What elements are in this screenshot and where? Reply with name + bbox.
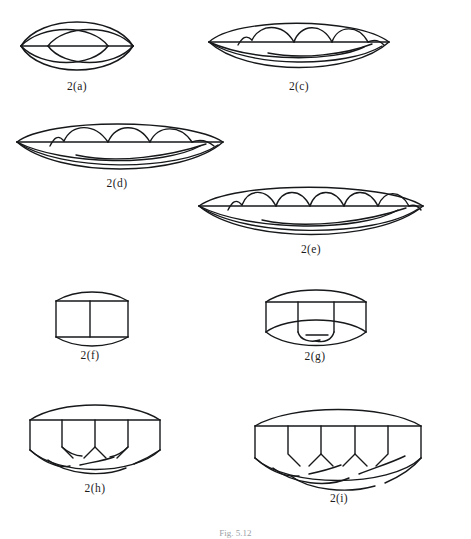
strand-2b <box>95 447 106 458</box>
diagram-2g <box>256 288 376 354</box>
lower-arc-2a <box>273 468 349 483</box>
diagram-label-2d: 2(d) <box>88 177 146 189</box>
top-arc <box>266 290 366 302</box>
bottom-hull-arc <box>30 450 160 470</box>
ellipse-front <box>266 332 366 346</box>
strand-3b <box>355 454 367 466</box>
diagram-label-2f: 2(f) <box>61 349 119 361</box>
top-arc <box>56 292 128 301</box>
scallop-1 <box>252 28 294 43</box>
lower-arc-1a <box>30 450 70 466</box>
scallop-4 <box>344 192 378 206</box>
scallop-2 <box>294 28 332 42</box>
scallop-1 <box>64 128 108 142</box>
lower-arc-2b <box>134 450 160 464</box>
lower-arc-1a <box>255 458 299 476</box>
diagram-2i <box>243 406 433 492</box>
inner-lens-b-bottom <box>48 46 133 63</box>
strand-1 <box>62 420 73 458</box>
diagram-label-2h: 2(h) <box>66 482 124 494</box>
lower-arc-1b <box>309 465 341 474</box>
diagram-2c <box>206 20 392 78</box>
scallop-2 <box>108 128 150 142</box>
strand-2b <box>321 454 333 466</box>
diagram-label-2c: 2(c) <box>270 80 328 92</box>
strand-4 <box>376 426 388 466</box>
lower-arc-1b <box>80 457 114 465</box>
diagram-2e <box>196 186 426 246</box>
top-arc <box>255 410 421 427</box>
diagram-label-2g: 2(g) <box>286 350 344 362</box>
inner-lens-a-top <box>21 30 108 47</box>
diagram-label-2a: 2(a) <box>48 80 106 92</box>
scallop-3 <box>310 192 344 206</box>
figure-page: 2(a) 2(c) <box>0 0 471 539</box>
ellipse-back <box>266 320 366 332</box>
scallop-2 <box>276 192 310 206</box>
scallop-3 <box>150 129 192 142</box>
top-hull-arc <box>17 124 223 142</box>
strand-2a <box>309 426 321 466</box>
diagram-label-2e: 2(e) <box>282 243 340 255</box>
diagram-label-2i: 2(i) <box>310 492 368 504</box>
top-arc <box>30 405 160 420</box>
scallop-1 <box>242 192 276 206</box>
scallop-tail-left <box>238 37 252 45</box>
inner-lens-b-top <box>48 30 133 47</box>
strand-2 <box>84 420 95 458</box>
inner-lens-a-bottom <box>21 46 108 63</box>
strand-a-hook <box>298 332 320 341</box>
chev-join-left <box>62 447 82 456</box>
bottom-arc <box>56 337 128 346</box>
lower-arc-2a <box>48 460 126 474</box>
diagram-2h <box>18 402 172 482</box>
strand-1 <box>288 426 300 466</box>
figure-caption: Fig. 5.12 <box>0 528 471 538</box>
diagram-2d <box>14 122 226 180</box>
strand-3a <box>343 426 355 466</box>
diagram-2a <box>18 16 136 74</box>
diagram-2f <box>48 291 136 349</box>
